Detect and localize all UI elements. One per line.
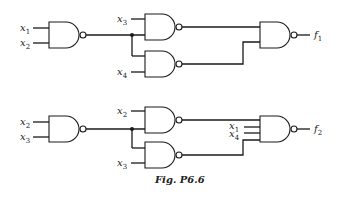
circuit-2: x2 x3 x2 x3 x1 x4 f2 <box>20 105 322 171</box>
inversion-bubble <box>291 126 297 132</box>
input-label-x3: x3 <box>117 13 127 27</box>
input-label-x3: x3 <box>117 157 127 171</box>
inversion-bubble <box>176 61 182 67</box>
nand-gate-1c <box>145 51 175 77</box>
input-label-x4: x4 <box>117 66 128 80</box>
inversion-bubble <box>80 32 86 38</box>
logic-circuit-figure: x1 x2 x3 x4 f1 x2 x3 <box>0 0 340 201</box>
inversion-bubble <box>176 117 182 123</box>
input-label-x2: x2 <box>117 105 127 119</box>
nand-gate-1b <box>145 14 175 40</box>
nand-gate-1a <box>49 22 79 48</box>
inversion-bubble <box>291 32 297 38</box>
circuit-1: x1 x2 x3 x4 f1 <box>20 13 322 80</box>
inversion-bubble <box>176 152 182 158</box>
output-label-f2: f2 <box>313 123 322 137</box>
nand-gate-1-output <box>260 22 290 48</box>
nand-gate-2b <box>145 107 175 133</box>
inversion-bubble <box>176 24 182 30</box>
nand-gate-2-output <box>260 116 290 142</box>
output-label-f1: f1 <box>313 29 322 43</box>
input-label-x1: x1 <box>20 22 30 36</box>
nand-gate-2a <box>49 116 79 142</box>
nand-gate-2c <box>145 142 175 168</box>
input-label-x3: x3 <box>20 131 30 145</box>
input-label-x2: x2 <box>20 37 30 51</box>
figure-caption: Fig. P6.6 <box>154 174 205 185</box>
input-label-x2: x2 <box>20 116 30 130</box>
inversion-bubble <box>80 126 86 132</box>
